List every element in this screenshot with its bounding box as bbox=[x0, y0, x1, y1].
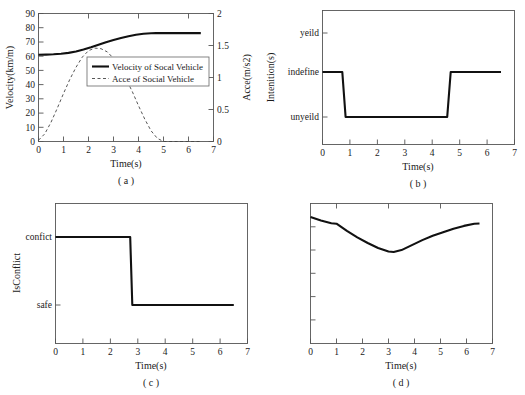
svg-text:3: 3 bbox=[386, 347, 391, 357]
svg-text:0.5: 0.5 bbox=[217, 105, 229, 115]
panel-a-ylabel-left: Velocity(km/m) bbox=[4, 46, 16, 109]
svg-text:4: 4 bbox=[136, 145, 141, 155]
svg-text:1: 1 bbox=[61, 145, 66, 155]
svg-text:1: 1 bbox=[348, 148, 353, 158]
panel-a: 0 10 20 30 40 50 60 70 80 90 0 0.5 1 1.5… bbox=[0, 0, 262, 197]
svg-text:0: 0 bbox=[36, 145, 41, 155]
panel-b-x-ticklabels: 0 1 2 3 4 5 6 7 bbox=[320, 148, 517, 158]
svg-text:7: 7 bbox=[490, 347, 495, 357]
svg-text:confict: confict bbox=[26, 232, 53, 242]
svg-text:50: 50 bbox=[26, 66, 36, 76]
svg-text:20: 20 bbox=[26, 108, 36, 118]
panel-a-chart: 0 10 20 30 40 50 60 70 80 90 0 0.5 1 1.5… bbox=[0, 0, 262, 197]
svg-text:90: 90 bbox=[26, 9, 36, 19]
svg-text:5: 5 bbox=[457, 148, 462, 158]
svg-text:1: 1 bbox=[217, 73, 222, 83]
panel-b-ylabel: Intenition(s) bbox=[265, 53, 277, 102]
panel-b-y-tickmarks bbox=[323, 33, 328, 117]
svg-text:7: 7 bbox=[512, 148, 517, 158]
panel-b-caption: ( b ) bbox=[410, 178, 427, 190]
panel-b-y-ticklabels: yeild indefine unyeild bbox=[288, 28, 319, 122]
svg-text:7: 7 bbox=[245, 347, 250, 357]
panel-c-caption: ( c ) bbox=[143, 377, 159, 389]
panel-b: yeild indefine unyeild 0 1 2 3 4 5 6 7 T… bbox=[262, 0, 524, 197]
panel-c-isconflict-curve bbox=[56, 237, 234, 305]
svg-text:80: 80 bbox=[26, 23, 36, 33]
svg-text:2: 2 bbox=[217, 9, 222, 19]
panel-d-x-ticklabels: 0 1 2 3 4 5 6 7 bbox=[308, 347, 495, 357]
panel-b-xlabel: Time(s) bbox=[402, 161, 433, 173]
panel-c-axes bbox=[56, 204, 248, 344]
panel-c-y-tickmarks bbox=[56, 237, 61, 305]
panel-a-y-left-ticklabels: 0 10 20 30 40 50 60 70 80 90 bbox=[26, 9, 36, 147]
svg-text:5: 5 bbox=[190, 347, 195, 357]
svg-text:safe: safe bbox=[37, 300, 52, 310]
svg-text:6: 6 bbox=[186, 145, 191, 155]
figure-container: 0 10 20 30 40 50 60 70 80 90 0 0.5 1 1.5… bbox=[0, 0, 525, 395]
svg-text:3: 3 bbox=[402, 148, 407, 158]
svg-text:0: 0 bbox=[53, 347, 58, 357]
svg-text:10: 10 bbox=[26, 123, 36, 133]
panel-c-ylabel: IsConflict bbox=[11, 253, 22, 293]
svg-text:30: 30 bbox=[26, 94, 36, 104]
svg-text:2: 2 bbox=[375, 148, 380, 158]
svg-text:0: 0 bbox=[320, 148, 325, 158]
svg-text:0: 0 bbox=[30, 137, 35, 147]
svg-text:6: 6 bbox=[218, 347, 223, 357]
svg-text:yeild: yeild bbox=[300, 28, 319, 38]
panel-b-intention-curve bbox=[323, 72, 502, 117]
panel-c-xlabel: Time(s) bbox=[135, 360, 166, 372]
svg-text:indefine: indefine bbox=[288, 67, 319, 77]
legend-label-velocity: Velocity of Socal Vehicle bbox=[112, 62, 203, 72]
panel-a-velocity-curve bbox=[39, 33, 201, 55]
svg-text:2: 2 bbox=[108, 347, 113, 357]
svg-text:40: 40 bbox=[26, 80, 36, 90]
panel-c-x-ticklabels: 0 1 2 3 4 5 6 7 bbox=[53, 347, 250, 357]
svg-text:0: 0 bbox=[308, 347, 313, 357]
svg-text:60: 60 bbox=[26, 52, 36, 62]
panel-d-y-tickmarks bbox=[311, 227, 316, 320]
svg-text:5: 5 bbox=[438, 347, 443, 357]
panel-a-legend: Velocity of Socal Vehicle Acce of Social… bbox=[87, 57, 209, 86]
svg-text:0: 0 bbox=[217, 137, 222, 147]
svg-text:4: 4 bbox=[163, 347, 168, 357]
panel-a-xlabel: Time(s) bbox=[110, 158, 141, 170]
panel-c-x-tickmarks bbox=[56, 339, 248, 344]
panel-d-metric-curve bbox=[311, 217, 480, 252]
svg-text:1: 1 bbox=[334, 347, 339, 357]
svg-text:5: 5 bbox=[161, 145, 166, 155]
panel-b-axes bbox=[323, 11, 515, 145]
svg-text:70: 70 bbox=[26, 37, 36, 47]
panel-a-x-ticklabels: 0 1 2 3 4 5 6 7 bbox=[36, 145, 216, 155]
panel-a-ylabel-right: Acce(m/s2) bbox=[241, 54, 253, 101]
panel-d: 0 1 2 3 4 5 6 7 Time(s) ( d ) bbox=[262, 197, 524, 394]
legend-label-acce: Acce of Social Vehicle bbox=[112, 74, 194, 84]
svg-text:7: 7 bbox=[211, 145, 216, 155]
panel-d-xlabel: Time(s) bbox=[385, 360, 416, 372]
svg-text:4: 4 bbox=[430, 148, 435, 158]
svg-text:4: 4 bbox=[412, 347, 417, 357]
panel-d-chart: 0 1 2 3 4 5 6 7 Time(s) ( d ) bbox=[262, 197, 524, 394]
svg-text:3: 3 bbox=[111, 145, 116, 155]
svg-text:6: 6 bbox=[485, 148, 490, 158]
svg-text:6: 6 bbox=[464, 347, 469, 357]
svg-text:3: 3 bbox=[135, 347, 140, 357]
panel-b-chart: yeild indefine unyeild 0 1 2 3 4 5 6 7 T… bbox=[262, 0, 524, 197]
svg-text:1.5: 1.5 bbox=[217, 41, 229, 51]
panel-a-y-right-ticklabels: 0 0.5 1 1.5 2 bbox=[217, 9, 229, 147]
panel-b-x-tickmarks bbox=[323, 140, 515, 145]
svg-text:2: 2 bbox=[360, 347, 365, 357]
panel-c-y-ticklabels: confict safe bbox=[26, 232, 53, 310]
panel-d-caption: ( d ) bbox=[393, 377, 410, 389]
svg-text:2: 2 bbox=[86, 145, 91, 155]
panel-c: confict safe 0 1 2 3 4 5 6 7 Time(s) IsC… bbox=[0, 197, 262, 394]
panel-c-chart: confict safe 0 1 2 3 4 5 6 7 Time(s) IsC… bbox=[0, 197, 262, 394]
svg-text:1: 1 bbox=[81, 347, 86, 357]
svg-text:unyeild: unyeild bbox=[291, 112, 320, 122]
panel-a-caption: ( a ) bbox=[118, 175, 134, 187]
